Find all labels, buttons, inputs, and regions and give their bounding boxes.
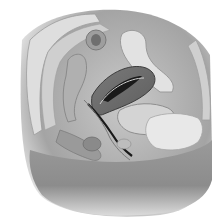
anal-tissue: [83, 137, 101, 151]
illustration-canvas: [0, 0, 221, 222]
top-fade: [0, 0, 221, 8]
bowel-loop-1-inner: [91, 34, 101, 46]
pelvis-illustration: [0, 0, 221, 222]
pubic-region: [146, 114, 203, 151]
tissue-node: [117, 139, 131, 149]
